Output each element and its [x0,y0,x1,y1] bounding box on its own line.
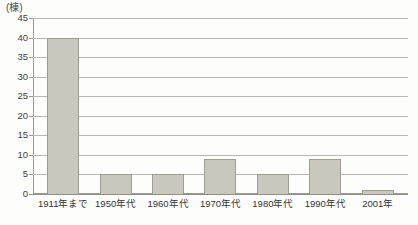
y-tick-label-10: 10 [17,150,28,160]
bar-slot [299,18,351,194]
bar [204,159,236,194]
y-tick-label-30: 30 [17,72,28,82]
bar [362,190,394,194]
y-tick-label-5: 5 [23,169,28,179]
y-tick-label-40: 40 [17,33,28,43]
y-tick-label-0: 0 [23,189,28,199]
bar [47,38,79,194]
y-tick-label-20: 20 [17,111,28,121]
x-tick-label-3: 1970年代 [194,198,246,210]
bar [309,159,341,194]
x-tick-label-2: 1960年代 [142,198,194,210]
gridline-0 [33,194,408,195]
bar-slot [194,18,246,194]
y-tick-label-35: 35 [17,52,28,62]
plot-area: 051015202530354045 [33,18,408,194]
y-tick-label-25: 25 [17,91,28,101]
x-tick-label-0: 1911年まで [37,198,89,210]
bar [152,174,184,194]
bar-slot [142,18,194,194]
bar-chart: (棟) 051015202530354045 1911年まで1950年代1960… [0,0,418,225]
bar [100,174,132,194]
x-tick-label-6: 2001年 [352,198,404,210]
x-tick-label-5: 1990年代 [299,198,351,210]
bar-slot [37,18,89,194]
bar-slot [89,18,141,194]
bar-series [33,18,408,194]
bar-slot [352,18,404,194]
x-tick-label-4: 1980年代 [247,198,299,210]
x-axis-labels: 1911年まで1950年代1960年代1970年代1980年代1990年代200… [33,198,408,210]
bar [257,174,289,194]
y-tick-mark-0 [29,194,33,195]
x-tick-label-1: 1950年代 [89,198,141,210]
y-tick-label-15: 15 [17,130,28,140]
y-tick-label-45: 45 [17,13,28,23]
bar-slot [247,18,299,194]
